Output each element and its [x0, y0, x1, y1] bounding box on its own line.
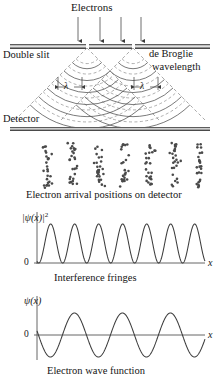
lambda-right-measure	[134, 77, 158, 90]
electron-arrival-dot	[197, 156, 200, 159]
electron-arrival-dot	[148, 144, 151, 147]
electron-arrival-dot	[46, 174, 49, 177]
electron-arrival-dot	[95, 153, 98, 156]
electron-arrival-dot	[198, 171, 201, 174]
electron-arrival-dot	[99, 165, 102, 168]
electron-arrival-dot	[98, 156, 101, 159]
electron-arrival-dot	[199, 160, 202, 163]
electron-arrival-dot	[74, 148, 77, 151]
electron-arrival-dot	[43, 184, 46, 187]
electron-arrival-dot	[171, 152, 174, 155]
electron-arrival-dot	[42, 170, 45, 173]
electron-arrival-dot	[72, 180, 75, 183]
electron-arrival-dot	[47, 157, 50, 160]
electron-arrival-dot	[148, 151, 151, 154]
electron-arrival-dot	[46, 165, 49, 168]
electron-arrival-dot	[72, 152, 75, 155]
wavefunction-y-axis-label: ψ(x)	[24, 296, 41, 306]
electron-arrival-dots	[42, 142, 204, 189]
electron-arrival-dot	[147, 157, 150, 160]
electron-arrival-dot	[197, 186, 200, 189]
electron-arrival-dot	[145, 161, 148, 164]
electron-arrival-dot	[94, 147, 97, 150]
electron-arrival-dot	[171, 167, 174, 170]
electron-arrival-dot	[171, 183, 174, 186]
electron-arrival-dot	[200, 146, 203, 149]
electron-arrival-dot	[49, 175, 52, 178]
electron-arrival-dot	[196, 146, 199, 149]
electron-arrival-dot	[69, 176, 72, 179]
electron-arrival-dot	[196, 143, 199, 146]
electron-arrival-dot	[72, 142, 75, 145]
electron-arrival-dot	[93, 162, 96, 165]
electron-arrival-dot	[71, 145, 74, 148]
electron-arrival-dot	[100, 178, 103, 181]
electron-arrival-dot	[102, 173, 105, 176]
electron-arrival-dot	[120, 162, 123, 165]
electron-arrival-dot	[101, 168, 104, 171]
electron-arrival-dot	[127, 170, 130, 173]
electron-arrival-dot	[172, 173, 175, 176]
detector-bar	[10, 127, 210, 131]
lambda-label-left: λ	[64, 82, 68, 92]
de-broglie-label-line2: wavelength	[152, 62, 200, 73]
wavefunction-chart	[34, 296, 205, 360]
electron-arrival-dot	[100, 160, 103, 163]
electron-arrival-dot	[168, 152, 171, 155]
electron-arrival-dot	[104, 185, 107, 188]
electron-arrival-dot	[46, 170, 49, 173]
electron-arrival-dot	[197, 183, 200, 186]
electron-arrival-dot	[73, 168, 76, 171]
electron-arrival-dot	[149, 162, 152, 165]
electron-arrival-dot	[124, 172, 127, 175]
electron-arrival-dot	[100, 156, 103, 159]
electron-arrival-dot	[201, 151, 204, 154]
electron-arrival-dot	[96, 145, 99, 148]
electron-arrival-dot	[176, 178, 179, 181]
barrier-segment-center	[89, 44, 132, 49]
wavefunction-caption: Electron wave function	[47, 366, 145, 377]
electron-arrival-dot	[101, 149, 104, 152]
electron-arrival-dot	[71, 183, 74, 186]
electron-arrival-dot	[149, 175, 152, 178]
electron-arrival-dot	[101, 183, 104, 186]
lambda-left-measure	[58, 77, 82, 90]
electron-arrival-dot	[174, 145, 177, 148]
electron-arrival-dot	[120, 145, 123, 148]
electron-arrival-dot	[174, 154, 177, 157]
electron-arrival-dot	[176, 181, 179, 184]
electron-arrival-dot	[200, 172, 203, 175]
lambda-label-right: λ	[140, 82, 144, 92]
electron-arrival-dot	[70, 155, 73, 158]
electron-arrival-dot	[147, 171, 150, 174]
electron-arrival-dot	[154, 150, 157, 153]
electron-arrival-dot	[199, 178, 202, 181]
electron-arrival-dot	[43, 145, 46, 148]
electron-arrival-dot	[47, 182, 50, 185]
electron-arrival-dot	[76, 165, 79, 168]
interference-fringes-chart	[34, 212, 205, 264]
electron-arrival-dot	[72, 177, 75, 180]
double-slit-physics-figure: Electrons Double slit de Broglie wavelen…	[0, 0, 219, 387]
electron-arrival-dot	[68, 181, 71, 184]
electron-arrival-dot	[73, 156, 76, 159]
electron-arrival-dot	[199, 143, 202, 146]
fringes-x-axis-label: x	[208, 258, 212, 268]
electron-arrival-dot	[96, 166, 99, 169]
electron-arrival-dot	[123, 169, 126, 172]
electron-arrival-dot	[174, 180, 177, 183]
electron-arrival-dot	[125, 159, 128, 162]
electron-arrival-dot	[179, 160, 182, 163]
electron-arrival-dot	[76, 182, 79, 185]
electron-arrival-dot	[66, 142, 69, 145]
electron-arrival-dot	[119, 185, 122, 188]
electron-arrival-dot	[51, 182, 54, 185]
electron-arrival-dot	[170, 142, 173, 145]
electron-arrival-dot	[45, 161, 48, 164]
fringes-curve	[37, 224, 205, 263]
electron-arrival-dot	[150, 183, 153, 186]
electron-arrival-dot	[95, 161, 98, 164]
electron-arrival-dot	[45, 155, 48, 158]
electron-arrival-dot	[177, 161, 180, 164]
electron-arrival-dot	[198, 165, 201, 168]
